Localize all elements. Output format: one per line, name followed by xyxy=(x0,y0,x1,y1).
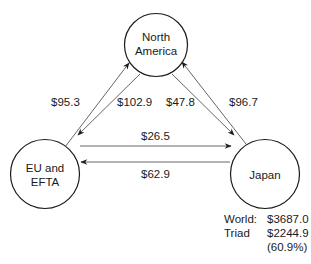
flow-label-japan-to-eu: $62.9 xyxy=(141,168,170,181)
node-label-japan: Japan xyxy=(231,168,299,182)
world-value: $3687.0 xyxy=(267,212,309,226)
node-label-line: North xyxy=(124,30,188,44)
totals-block: World: $3687.0 Triad $2244.9 (60.9%) xyxy=(224,212,309,254)
triad-value: $2244.9 xyxy=(267,226,309,240)
totals-triad-row: Triad $2244.9 xyxy=(224,226,309,240)
node-label-eu-efta: EU and EFTA xyxy=(11,161,79,189)
totals-world-row: World: $3687.0 xyxy=(224,212,309,226)
node-label-north-america: North America xyxy=(124,30,188,58)
flow-label-japan-to-na: $96.7 xyxy=(229,96,258,109)
flow-label-eu-to-na: $95.3 xyxy=(51,96,80,109)
world-label: World: xyxy=(224,212,267,226)
flow-label-eu-to-japan: $26.5 xyxy=(141,130,170,143)
triad-share: (60.9%) xyxy=(267,240,307,254)
triad-label: Triad xyxy=(224,226,267,240)
flow-label-na-to-eu: $102.9 xyxy=(117,96,152,109)
node-label-line: EFTA xyxy=(11,175,79,189)
node-label-line: EU and xyxy=(11,161,79,175)
totals-share-row: (60.9%) xyxy=(224,240,309,254)
flow-label-na-to-japan: $47.8 xyxy=(166,96,195,109)
node-label-line: Japan xyxy=(231,168,299,182)
node-label-line: America xyxy=(124,44,188,58)
